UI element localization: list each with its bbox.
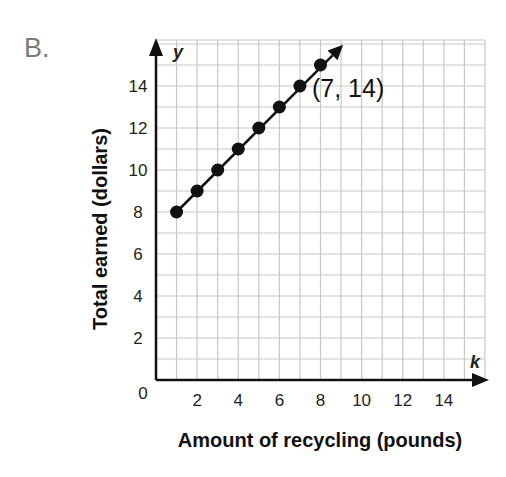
y-tick-label: 10 <box>129 161 148 180</box>
data-point <box>191 185 204 198</box>
data-point <box>232 143 245 156</box>
data-point <box>211 164 224 177</box>
x-tick-label: 2 <box>192 391 201 410</box>
x-variable-label: k <box>470 352 481 372</box>
y-axis-arrow-icon <box>149 38 163 56</box>
data-point <box>293 80 306 93</box>
y-tick-label: 6 <box>133 245 142 264</box>
origin-label: 0 <box>138 384 147 403</box>
tick-labels: 024681012142468101214yk <box>129 42 481 410</box>
data-point <box>314 59 327 72</box>
y-axis-title: Total earned (dollars) <box>89 128 112 330</box>
y-variable-label: y <box>172 42 184 62</box>
x-tick-label: 14 <box>434 391 453 410</box>
point-annotation: (7, 14) <box>312 74 384 103</box>
x-axis-arrow-icon <box>472 373 489 387</box>
data-point <box>252 122 265 135</box>
data-point <box>273 101 286 114</box>
x-tick-label: 4 <box>234 391 243 410</box>
x-tick-label: 8 <box>316 391 325 410</box>
y-tick-label: 8 <box>133 203 142 222</box>
y-tick-label: 14 <box>129 77 148 96</box>
x-tick-label: 12 <box>393 391 412 410</box>
x-tick-label: 10 <box>352 391 371 410</box>
data-point <box>170 206 183 219</box>
y-tick-label: 2 <box>133 329 142 348</box>
y-tick-label: 4 <box>133 287 142 306</box>
x-tick-label: 6 <box>275 391 284 410</box>
line-graph: 024681012142468101214yk <box>0 0 506 477</box>
y-tick-label: 12 <box>129 119 148 138</box>
data-series <box>170 45 343 219</box>
x-axis-title: Amount of recycling (pounds) <box>178 429 462 452</box>
